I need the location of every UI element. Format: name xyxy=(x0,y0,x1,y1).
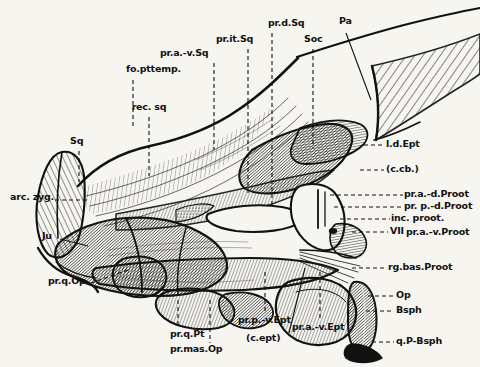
leader-pa xyxy=(346,33,371,100)
label-pr-a-v-sq: pr.a.-v.Sq xyxy=(160,48,208,58)
label-pa: Pa xyxy=(339,16,352,26)
anatomical-figure: fo.pttemp. pr.a.-v.Sq pr.it.Sq pr.d.Sq S… xyxy=(0,0,480,367)
label-pr-q-op: pr.q.Op xyxy=(48,276,86,286)
label-rec-sq: rec. sq xyxy=(132,102,167,112)
label-pr-it-sq: pr.it.Sq xyxy=(216,34,253,44)
label-pr-q-pt: pr.q.Pt xyxy=(170,329,204,339)
label-pr-p-v-ept: pr.p.-v.Ept xyxy=(238,315,291,325)
label-pr-a-d-proot: pr.a.-d.Proot xyxy=(404,189,469,199)
label-pr-a-v-ept: pr.a.-v.Ept xyxy=(292,322,344,332)
label-pr-d-sq: pr.d.Sq xyxy=(268,18,304,28)
label-c-ept: (c.ept) xyxy=(246,333,280,343)
label-rg-bas-proot: rg.bas.Proot xyxy=(388,262,452,272)
label-ju: Ju xyxy=(42,231,52,241)
label-pr-mas-op: pr.mas.Op xyxy=(170,344,222,354)
label-q-p-bsph: q.P-Bsph xyxy=(396,336,442,346)
label-fo-pttemp: fo.pttemp. xyxy=(126,64,181,74)
label-sq: Sq xyxy=(70,136,83,146)
label-inc-proot: inc. proot. xyxy=(391,213,444,223)
label-l-d-ept: l.d.Ept xyxy=(386,139,420,149)
label-arc-zyg: arc. zyg. xyxy=(10,192,54,202)
label-op: Op xyxy=(396,290,410,300)
label-vii: VII xyxy=(390,226,404,236)
label-pr-a-v-proot: pr.a.-v.Proot xyxy=(406,227,469,237)
label-bsph: Bsph xyxy=(396,305,422,315)
label-pr-p-d-proot: pr. p.-d.Proot xyxy=(404,201,472,211)
label-c-cb: (c.cb.) xyxy=(386,164,419,174)
label-soc: Soc xyxy=(304,34,322,44)
